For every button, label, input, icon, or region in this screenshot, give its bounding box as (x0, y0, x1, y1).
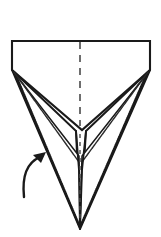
arrow-shaft (24, 157, 40, 197)
arrow-head-icon (33, 152, 46, 163)
diagram-root: Origami fold step Rectangular sheet with… (0, 0, 161, 237)
fold-direction-arrow (24, 152, 46, 197)
origami-fold-diagram: Origami fold step Rectangular sheet with… (0, 0, 161, 237)
